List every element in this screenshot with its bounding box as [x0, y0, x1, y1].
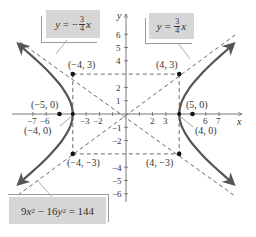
- point-4-3: [177, 72, 182, 77]
- eq-minus-16: − 16: [35, 205, 58, 217]
- x-tick-label: 7: [216, 116, 221, 126]
- asymptote-negative-callout: y = − 3 4 x: [46, 10, 100, 38]
- y-tick-label: −1: [112, 123, 122, 133]
- callout-shadow-equation: [8, 194, 109, 195]
- asymptote-positive-callout: y = 3 4 x: [149, 13, 194, 39]
- y-tick-label: 2: [116, 83, 121, 93]
- vertex-4-0: [177, 112, 181, 116]
- label-neg4-neg3: (−4, −3): [67, 157, 100, 169]
- callout-var-x: x: [181, 20, 186, 32]
- asymptote-positive: [18, 35, 235, 195]
- point-4-neg3: [177, 152, 182, 157]
- y-tick-label: 1: [116, 96, 121, 106]
- callout-shadow-equation-right: [108, 194, 109, 222]
- y-tick-label: 6: [116, 30, 121, 40]
- label-neg4-3: (−4, 3): [68, 59, 95, 71]
- y-tick-label: −6: [112, 189, 122, 199]
- point-neg4-neg3: [71, 152, 76, 157]
- vertex-neg4-0: [71, 112, 75, 116]
- eq-rhs: = 144: [66, 205, 94, 217]
- leader-4-0: [181, 117, 193, 127]
- focus-5-0: [190, 112, 195, 117]
- point-neg4-3: [71, 72, 76, 77]
- y-tick-label: −4: [112, 163, 122, 173]
- fraction-denominator: 4: [175, 27, 179, 35]
- label-neg5-0: (−5, 0): [31, 99, 58, 111]
- label-4-neg3: (4, −3): [146, 157, 173, 169]
- focus-neg5-0: [57, 112, 62, 117]
- callout-pointer-pos: [178, 43, 190, 59]
- fraction: 3 4: [79, 16, 85, 33]
- fraction-denominator: 4: [80, 25, 84, 33]
- label-5-0: (5, 0): [186, 99, 208, 111]
- y-axis-label: y: [116, 10, 122, 21]
- y-tick-label: 5: [116, 43, 121, 53]
- y-tick-label: −5: [112, 176, 122, 186]
- callout-var-x: x: [86, 18, 91, 30]
- x-axis-label: x: [236, 116, 242, 127]
- fraction: 3 4: [174, 18, 180, 35]
- x-tick-label: −3: [80, 116, 90, 126]
- x-tick-label: 3: [163, 116, 168, 126]
- label-4-3: (4, 3): [156, 59, 178, 71]
- y-tick-label: −2: [112, 136, 122, 146]
- label-4-0: (4, 0): [195, 125, 217, 137]
- x-tick-label: −2: [93, 116, 103, 126]
- callout-eq: = −: [60, 18, 78, 30]
- equation-callout: 9x2 − 16y2 = 144: [9, 197, 106, 224]
- x-tick-label: 2: [150, 116, 155, 126]
- label-neg4-0: (−4, 0): [24, 125, 51, 137]
- callout-eq: =: [162, 20, 174, 32]
- y-tick-label: 4: [116, 56, 121, 66]
